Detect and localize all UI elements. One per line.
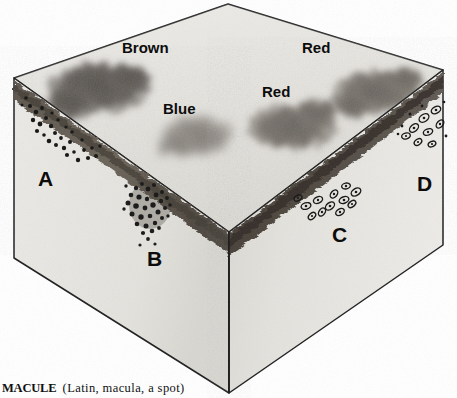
surface-label-red-right: Red xyxy=(302,40,330,55)
caption-term: MACULE xyxy=(2,381,56,395)
figure-caption: MACULE (Latin, macula, a spot) xyxy=(2,381,302,398)
skin-block-illustration xyxy=(0,0,457,398)
surface-label-blue: Blue xyxy=(163,101,196,116)
surface-label-brown: Brown xyxy=(122,40,169,55)
surface-label-red-center: Red xyxy=(262,84,290,99)
caption-gloss: (Latin, macula, a spot) xyxy=(63,381,185,395)
zone-letter-d: D xyxy=(417,173,432,194)
zone-letter-b: B xyxy=(147,248,162,269)
zone-letter-a: A xyxy=(38,168,53,189)
zone-letter-c: C xyxy=(332,224,347,245)
macule-figure: Brown Red Red Blue A B C D MACULE (Latin… xyxy=(0,0,457,398)
